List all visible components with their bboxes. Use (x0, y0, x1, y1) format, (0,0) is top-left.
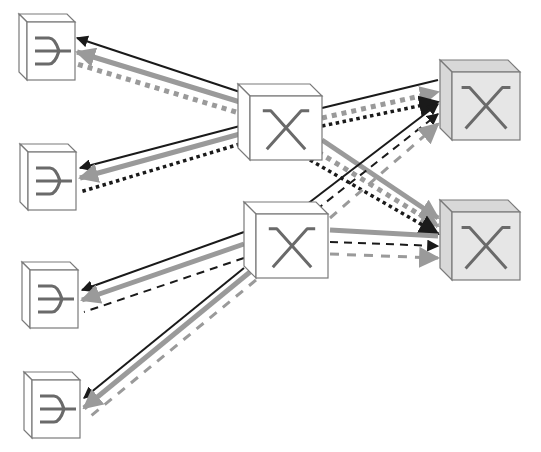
link-gray-dashed (86, 280, 256, 420)
cube-top-face (244, 202, 328, 214)
cube-top-face (22, 262, 78, 270)
link-gray-dashed (330, 254, 438, 258)
link-black-dashed (84, 258, 244, 312)
switch-mid-top-node (238, 84, 322, 160)
link-black-solid (82, 232, 244, 290)
link-black-solid (84, 268, 244, 398)
cube-side-face (244, 202, 256, 278)
link-black-dots (80, 144, 240, 192)
leaf-2-node (20, 144, 76, 210)
link-black-dashed (316, 114, 438, 210)
leaf-1-node (19, 14, 75, 80)
link-black-dashed (330, 242, 438, 246)
link-black-solid (80, 126, 240, 168)
cube-side-face (24, 372, 32, 438)
cube-top-face (440, 60, 520, 72)
link-black-dots (310, 160, 438, 234)
link-gray-squares (77, 64, 236, 112)
link-gray-thick (82, 244, 244, 300)
link-gray-thick (80, 134, 240, 178)
switch-mid-bottom-node (244, 202, 328, 278)
diagram-canvas (0, 0, 541, 452)
cube-side-face (440, 60, 452, 140)
switch-right-bottom-node (440, 200, 520, 280)
leaf-3-node (22, 262, 78, 328)
link-gray-squares (318, 152, 438, 226)
network-diagram (0, 0, 541, 452)
leaf-4-node (24, 372, 80, 438)
link-gray-thick (330, 230, 438, 236)
link-gray-thick (77, 52, 240, 102)
switch-right-top-node (440, 60, 520, 140)
cube-side-face (238, 84, 250, 160)
cube-side-face (440, 200, 452, 280)
cube-top-face (440, 200, 520, 212)
cube-side-face (20, 144, 28, 210)
link-black-solid (77, 38, 240, 92)
cube-top-face (19, 14, 75, 22)
cube-side-face (22, 262, 30, 328)
cube-side-face (19, 14, 27, 80)
link-black-dots (322, 102, 438, 126)
nodes-layer (19, 14, 520, 438)
cube-top-face (20, 144, 76, 152)
cube-top-face (238, 84, 322, 96)
cube-top-face (24, 372, 80, 380)
